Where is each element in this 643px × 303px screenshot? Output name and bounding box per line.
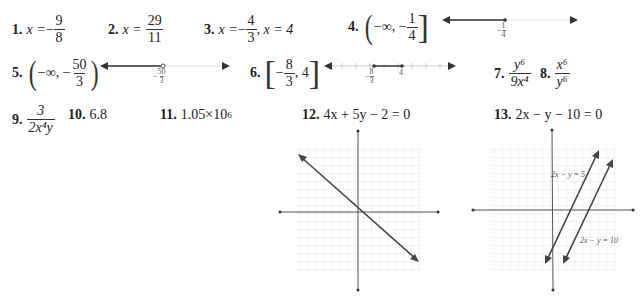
interval-open: (	[28, 56, 36, 90]
problem-number: 6.	[250, 65, 261, 81]
interval-open: (	[364, 10, 372, 44]
denominator: y⁶	[555, 73, 570, 89]
fraction: x⁶ y⁶	[555, 58, 570, 89]
equation: 4x + 5y − 2 = 0	[324, 107, 411, 123]
problem-1: 1. x = − 9 8	[12, 14, 65, 45]
interval-open: [	[265, 56, 276, 90]
interval-close: ]	[309, 56, 320, 90]
answer-exponent: 6	[227, 110, 232, 120]
right-arrow-icon	[448, 62, 456, 70]
problem-2: 2. x = 29 11	[108, 14, 164, 45]
answer-base: 1.05×10	[181, 107, 227, 123]
problem-4: 4. ( −∞, − 1 4 ]	[348, 10, 429, 44]
interval-prefix: −∞, −	[38, 65, 71, 81]
numerator: 4	[246, 14, 257, 29]
equation: 2x − y − 10 = 0	[516, 107, 603, 123]
problem-number: 12.	[302, 107, 320, 123]
problem-number: 11.	[160, 107, 177, 123]
label-fraction: 8 3	[370, 68, 374, 85]
numerator: 50	[71, 58, 89, 73]
right-arrow-icon	[570, 16, 578, 24]
problem-number: 5.	[12, 65, 23, 81]
equation-rest: , x = 4	[257, 22, 294, 38]
denominator: 2x⁴y	[27, 119, 55, 135]
left-arrow-icon	[324, 62, 332, 70]
denominator: 4	[407, 27, 418, 43]
problem-number: 8.	[540, 66, 551, 82]
left-arrow-icon	[442, 16, 450, 24]
number-line-6-left-label: − 8 3	[365, 68, 374, 85]
problem-number: 10.	[68, 107, 86, 123]
denominator: 3	[160, 76, 164, 85]
label-fraction: 50 3	[158, 68, 166, 85]
line-label-2: 2x − y = 10	[580, 236, 618, 245]
numerator: 29	[146, 14, 164, 29]
denominator: 4	[502, 30, 506, 39]
number-line-5-label: − 50 3	[153, 68, 166, 85]
problem-8: 8. x⁶ y⁶	[540, 58, 570, 89]
sign: −	[238, 22, 246, 38]
numerator: 1	[407, 12, 418, 27]
answer-value: 6.8	[90, 107, 108, 123]
denominator: 11	[146, 29, 163, 45]
denominator: 3	[246, 29, 257, 45]
right-arrow-icon	[222, 62, 230, 70]
fraction: 9 8	[54, 14, 65, 45]
fraction: 50 3	[71, 58, 89, 89]
problem-number: 13.	[494, 107, 512, 123]
number-line-6-right-label: 4	[399, 68, 403, 77]
fraction: 3 2x⁴y	[27, 104, 55, 135]
numerator: x⁶	[555, 58, 570, 73]
numerator: 9	[54, 14, 65, 29]
label-fraction: 1 4	[502, 22, 506, 39]
denominator: 3	[370, 76, 374, 85]
fraction: 4 3	[246, 14, 257, 45]
problem-number: 3.	[204, 22, 215, 38]
problem-12: 12. 4x + 5y − 2 = 0	[302, 106, 410, 124]
interval-close: ]	[418, 10, 429, 44]
numerator: y⁶	[512, 58, 527, 73]
fraction: y⁶ 9x⁴	[509, 58, 531, 89]
interval-prefix: −	[276, 65, 284, 81]
numerator: 8	[284, 58, 295, 73]
problem-3: 3. x = − 4 3 , x = 4	[204, 14, 293, 45]
problem-number: 4.	[348, 19, 359, 35]
left-arrow-icon	[100, 62, 108, 70]
graph-13: 2x − y = 5 2x − y = 10	[470, 125, 643, 303]
numerator: 50	[158, 68, 166, 76]
problem-9: 9. 3 2x⁴y	[12, 104, 55, 135]
problem-number: 9.	[12, 112, 23, 128]
problem-number: 2.	[108, 22, 119, 38]
number-line-6	[322, 60, 458, 96]
problem-11: 11. 1.05×106	[160, 106, 232, 124]
numerator: 8	[370, 68, 374, 76]
interval-suffix: , 4	[295, 65, 309, 81]
problem-13: 13. 2x − y − 10 = 0	[494, 106, 602, 124]
equation-lhs: x =	[27, 22, 46, 38]
problem-number: 7.	[494, 66, 505, 82]
equation-lhs: x =	[219, 22, 238, 38]
equation-lhs: x =	[123, 22, 142, 38]
denominator: 3	[284, 73, 295, 89]
denominator: 9x⁴	[509, 73, 531, 89]
number-line-4-label: − 1 4	[497, 22, 506, 39]
problem-6: 6. [ − 8 3 , 4 ]	[250, 56, 320, 90]
interval-prefix: −∞, −	[374, 19, 407, 35]
sign: −	[46, 22, 54, 38]
denominator: 3	[74, 73, 85, 89]
graph-12	[275, 125, 455, 303]
number-line-4	[440, 12, 580, 48]
problem-10: 10. 6.8	[68, 106, 107, 124]
fraction: 29 11	[146, 14, 164, 45]
denominator: 8	[54, 29, 65, 45]
problem-5: 5. ( −∞, − 50 3 )	[12, 56, 100, 90]
numerator: 1	[502, 22, 506, 30]
fraction: 1 4	[407, 12, 418, 43]
line-label-1: 2x − y = 5	[551, 170, 585, 179]
numerator: 3	[35, 104, 46, 119]
problem-number: 1.	[12, 22, 23, 38]
fraction: 8 3	[284, 58, 295, 89]
problem-7: 7. y⁶ 9x⁴	[494, 58, 531, 89]
